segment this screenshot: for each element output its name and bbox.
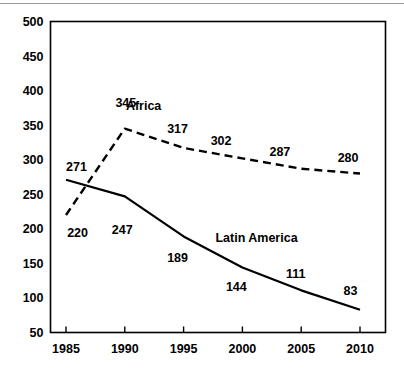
- line-chart: 50100150200250300350400450500 1985199019…: [0, 0, 404, 376]
- data-point-label-317: 317: [167, 122, 188, 136]
- x-axis-label-1995: 1995: [170, 342, 198, 356]
- y-axis-label-150: 150: [23, 257, 44, 271]
- y-axis-label-50: 50: [30, 326, 44, 340]
- data-point-label-280: 280: [338, 151, 359, 165]
- chart-data-labels: AfricaLatin America220345317302287280271…: [66, 96, 359, 299]
- y-axis-label-400: 400: [23, 84, 44, 98]
- x-axis-label-2010: 2010: [346, 342, 374, 356]
- y-axis-label-300: 300: [23, 153, 44, 167]
- data-point-label-345: 345: [115, 96, 136, 110]
- y-axis-label-350: 350: [23, 119, 44, 133]
- y-axis-label-450: 450: [23, 50, 44, 64]
- y-axis-label-200: 200: [23, 222, 44, 236]
- chart-axes: [51, 22, 386, 333]
- series-line-latin-america: [66, 180, 360, 310]
- data-point-label-189: 189: [167, 251, 188, 265]
- data-point-label-111: 111: [286, 267, 306, 281]
- data-point-label-83: 83: [344, 284, 358, 298]
- y-axis-label-500: 500: [23, 15, 44, 29]
- y-axis-label-100: 100: [23, 291, 44, 305]
- data-point-label-220: 220: [67, 226, 88, 240]
- x-axis-label-1985: 1985: [52, 342, 80, 356]
- x-axis-label-2000: 2000: [228, 342, 256, 356]
- data-point-label-144: 144: [226, 280, 247, 294]
- x-axis-label-2005: 2005: [287, 342, 315, 356]
- y-axis-label-250: 250: [23, 188, 44, 202]
- x-axis-label-1990: 1990: [111, 342, 139, 356]
- chart-series-lines: [66, 129, 360, 310]
- x-axis-tick-labels: 198519901995200020052010: [52, 342, 374, 356]
- data-point-label-287: 287: [269, 145, 290, 159]
- chart-canvas: 50100150200250300350400450500 1985199019…: [0, 0, 404, 376]
- data-point-label-247: 247: [112, 223, 133, 237]
- data-point-label-302: 302: [211, 134, 232, 148]
- series-name-label-latin-america: Latin America: [215, 231, 298, 245]
- y-axis-tick-labels: 50100150200250300350400450500: [23, 15, 44, 340]
- data-point-label-271: 271: [66, 160, 87, 174]
